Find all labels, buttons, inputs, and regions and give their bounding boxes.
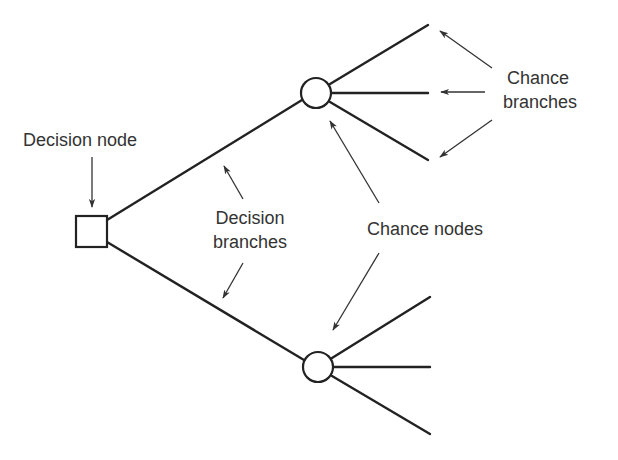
chance-branch-lower-3 — [332, 376, 430, 434]
chance-branches-label-line2: branches — [503, 92, 577, 112]
decision-tree-diagram: Decision node Decision branches Chance n… — [0, 0, 618, 460]
decision-branch-lower — [107, 242, 304, 360]
chance-nodes-label: Chance nodes — [367, 219, 483, 239]
decision-node-label: Decision node — [23, 130, 137, 150]
chance-branch-upper-3 — [330, 102, 428, 160]
decision-branches-label-line2: branches — [213, 232, 287, 252]
chance-branch-upper-1 — [330, 25, 428, 84]
decision-branches-arrow-down — [223, 263, 243, 298]
chance-branches-arrow-top — [440, 31, 492, 68]
chance-node-lower-circle — [303, 352, 333, 382]
chance-branches-arrow-bottom — [440, 120, 492, 157]
chance-node-upper-circle — [301, 78, 331, 108]
chance-branches-label-line1: Chance — [507, 68, 569, 88]
decision-branch-upper — [107, 100, 302, 220]
decision-node-square — [76, 216, 107, 247]
decision-branches-arrow-up — [224, 166, 243, 199]
chance-nodes-arrow-down — [333, 253, 379, 330]
chance-nodes-arrow-up — [330, 121, 379, 203]
decision-branches-label-line1: Decision — [215, 208, 284, 228]
